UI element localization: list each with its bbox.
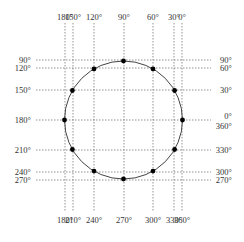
top-angle-label: 120° [86, 12, 102, 22]
angle-point [151, 169, 156, 174]
angle-point [172, 88, 177, 93]
angle-point [70, 88, 75, 93]
angle-point [121, 59, 126, 64]
bottom-angle-label: 240° [86, 215, 102, 225]
angle-labels: 180°150°120°90°60°30°0°180°210°240°270°3… [15, 12, 232, 225]
bottom-angle-label: 360° [174, 215, 190, 225]
right-angle-label: 30° [220, 85, 232, 95]
right-angle-label: 330° [216, 145, 232, 155]
bottom-angle-label: 210° [65, 215, 81, 225]
angle-point [172, 147, 177, 152]
angle-point [70, 147, 75, 152]
bottom-angle-label: 300° [145, 215, 161, 225]
right-angle-label: 360° [216, 121, 232, 131]
right-angle-label: 60° [220, 63, 232, 73]
left-angle-label: 150° [15, 85, 31, 95]
left-angle-label: 270° [15, 175, 31, 185]
top-angle-label: 150° [65, 12, 81, 22]
angle-point [62, 118, 67, 123]
angle-point [121, 177, 126, 182]
left-angle-label: 180° [15, 115, 31, 125]
right-angle-label: 0° [224, 111, 232, 121]
right-angle-label: 270° [216, 175, 232, 185]
left-angle-label: 210° [15, 145, 31, 155]
angle-point [92, 67, 97, 72]
angle-point [151, 67, 156, 72]
angle-point [180, 118, 185, 123]
top-angle-label: 60° [147, 12, 159, 22]
left-angle-label: 120° [15, 63, 31, 73]
top-angle-label: 0° [178, 12, 186, 22]
unit-circle-diagram: 180°150°120°90°60°30°0°180°210°240°270°3… [0, 0, 244, 242]
guide-lines [36, 23, 211, 212]
bottom-angle-label: 270° [116, 215, 132, 225]
top-angle-label: 90° [118, 12, 130, 22]
angle-point [92, 169, 97, 174]
